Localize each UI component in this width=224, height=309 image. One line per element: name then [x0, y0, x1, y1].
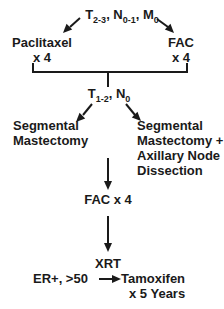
- fac-arm: FAC x 4: [152, 35, 210, 65]
- fac-arm-name: FAC: [152, 35, 210, 50]
- er-condition-label: ER+, >50: [33, 271, 88, 286]
- axillary-dissection-line2: Mastectomy +: [137, 133, 223, 148]
- paclitaxel-arm-name: Paclitaxel: [6, 35, 78, 50]
- axillary-dissection-line4: Dissection: [137, 163, 223, 178]
- radiation-step-label: XRT: [82, 256, 134, 271]
- treatment-flow-diagram: T2-3, N0-1, M0 Paclitaxel x 4 FAC x 4 T1…: [0, 0, 224, 309]
- arrow-to-chemo-head: [104, 181, 112, 190]
- chemo-step-label: FAC x 4: [68, 192, 148, 207]
- segmental-mastectomy-line2: Mastectomy: [13, 133, 88, 148]
- segmental-mastectomy-option: Segmental Mastectomy: [13, 118, 88, 148]
- tamoxifen-label: Tamoxifen: [121, 271, 185, 286]
- paclitaxel-arm: Paclitaxel x 4: [6, 35, 78, 65]
- axillary-dissection-line1: Segmental: [137, 118, 223, 133]
- axillary-dissection-option: Segmental Mastectomy + Axillary Node Dis…: [137, 118, 223, 178]
- paclitaxel-arm-cycles: x 4: [6, 50, 78, 65]
- arrow-to-tamoxifen-head: [112, 275, 121, 283]
- arrow-to-radiation-head: [104, 243, 112, 252]
- arrow-to-axillary-dissection-line: [126, 104, 135, 115]
- segmental-mastectomy-line1: Segmental: [13, 118, 88, 133]
- tamoxifen-duration-label: x 5 Years: [129, 286, 185, 301]
- fac-arm-cycles: x 4: [152, 50, 210, 65]
- arrow-to-segmental-mastectomy-line: [83, 104, 92, 115]
- axillary-dissection-line3: Axillary Node: [137, 148, 223, 163]
- stage2-tnm-label: T1-2, N0: [80, 86, 138, 101]
- stage1-tnm-label: T2-3, N0-1, M0: [74, 7, 170, 22]
